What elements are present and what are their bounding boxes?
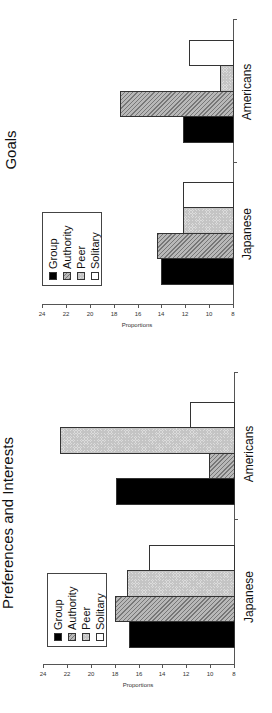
value-tick-label: 12 (182, 311, 189, 317)
value-tick-label: 16 (134, 311, 141, 317)
value-tick-label: 12 (183, 671, 190, 677)
legend-swatch-icon (77, 272, 85, 280)
value-tick-label: 14 (159, 671, 166, 677)
value-tick-label: 22 (63, 311, 70, 317)
value-tick (43, 665, 44, 668)
value-tick-label: 20 (86, 311, 93, 317)
value-tick-label: 24 (40, 671, 47, 677)
bar-group-americans (116, 479, 235, 506)
value-tick-label: 22 (64, 671, 71, 677)
value-tick (66, 305, 67, 308)
legend-label: Solitary (88, 232, 102, 269)
bar-peer-japanese (183, 208, 234, 235)
legend-swatch-icon (49, 272, 57, 280)
value-tick (91, 665, 92, 668)
value-tick-label: 8 (231, 311, 234, 317)
value-axis-title: Proportions (122, 682, 153, 688)
bar-solitary-americans (190, 402, 235, 429)
value-tick (161, 305, 162, 308)
value-tick-label: 10 (207, 671, 214, 677)
value-tick (185, 305, 186, 308)
legend-label: Group (51, 599, 65, 630)
value-tick-label: 14 (158, 311, 165, 317)
category-tick (234, 519, 238, 520)
bar-group-japanese (161, 259, 234, 286)
value-tick-label: 18 (110, 311, 117, 317)
value-tick (90, 305, 91, 308)
bar-group-japanese (129, 622, 235, 649)
bar-solitary-japanese (149, 545, 235, 572)
value-tick (67, 665, 68, 668)
bar-authority-japanese (115, 596, 235, 623)
category-label: Americans (242, 426, 256, 483)
legend-swatch-icon (96, 633, 104, 641)
value-tick (115, 665, 116, 668)
legend-item-peer: Peer (74, 218, 88, 280)
bar-authority-americans (209, 453, 235, 480)
value-tick (210, 665, 211, 668)
legend-label: Peer (79, 607, 93, 630)
chart-legend: GroupAuthorityPeerSolitary (47, 573, 107, 647)
legend-item-authority: Authority (60, 218, 74, 280)
legend-swatch-icon (63, 272, 71, 280)
category-tick (233, 19, 237, 20)
value-axis-title: Proportions (121, 322, 152, 328)
category-tick (234, 372, 238, 373)
value-tick (138, 305, 139, 308)
bar-solitary-japanese (183, 182, 234, 209)
bar-authority-americans (120, 91, 234, 118)
value-tick-label: 18 (111, 671, 118, 677)
value-tick-label: 10 (206, 311, 213, 317)
bar-peer-americans (60, 428, 235, 455)
value-tick (139, 665, 140, 668)
category-label: Americans (240, 64, 254, 121)
goals-chart: Goals 81012141618202224ProportionsJapane… (0, 0, 272, 360)
category-label: Japanese (240, 208, 254, 260)
category-label: Japanese (242, 571, 256, 623)
legend-label: Peer (74, 246, 88, 269)
bar-authority-japanese (157, 233, 234, 260)
value-tick (209, 305, 210, 308)
value-tick (234, 665, 235, 668)
value-tick-label: 24 (39, 311, 46, 317)
bar-peer-americans (220, 66, 234, 93)
legend-label: Solitary (93, 593, 107, 630)
legend-label: Authority (60, 226, 74, 269)
legend-item-peer: Peer (79, 579, 93, 641)
legend-item-group: Group (51, 579, 65, 641)
chart-title: Preferences and Interests (0, 437, 16, 609)
goals-chart-panel: Goals 81012141618202224ProportionsJapane… (0, 0, 272, 360)
preferences-chart-panel: Preferences and Interests 81012141618202… (0, 350, 272, 713)
value-tick (42, 305, 43, 308)
legend-swatch-icon (54, 633, 62, 641)
legend-swatch-icon (91, 272, 99, 280)
legend-item-solitary: Solitary (88, 218, 102, 280)
bar-peer-japanese (127, 571, 235, 598)
legend-swatch-icon (68, 633, 76, 641)
chart-title: Goals (2, 130, 19, 169)
value-tick (233, 305, 234, 308)
legend-label: Authority (65, 587, 79, 630)
legend-swatch-icon (82, 633, 90, 641)
chart-legend: GroupAuthorityPeerSolitary (42, 212, 102, 286)
legend-label: Group (46, 238, 60, 269)
value-tick-label: 8 (232, 671, 235, 677)
bar-group-americans (183, 117, 234, 144)
legend-item-solitary: Solitary (93, 579, 107, 641)
bar-solitary-americans (189, 40, 234, 67)
legend-item-authority: Authority (65, 579, 79, 641)
value-tick-label: 20 (87, 671, 94, 677)
value-tick-label: 16 (135, 671, 142, 677)
value-tick (162, 665, 163, 668)
legend-item-group: Group (46, 218, 60, 280)
preferences-chart: Preferences and Interests 81012141618202… (0, 350, 272, 713)
category-tick (233, 162, 237, 163)
value-tick (186, 665, 187, 668)
value-tick (114, 305, 115, 308)
